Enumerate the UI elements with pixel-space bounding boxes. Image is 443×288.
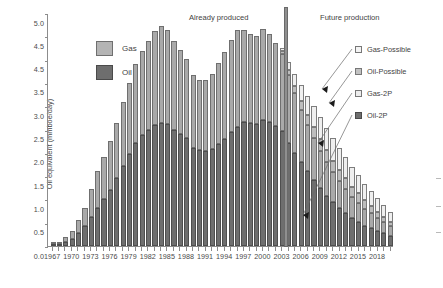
page-edge-mark-2 [436,206,441,207]
segment-gas-possible [362,184,367,201]
x-tick-label: 2009 [312,252,328,261]
segment-gas-possible [305,96,310,115]
x-tick-label: 2003 [273,252,289,261]
segment-gas-2p [260,29,265,120]
segment-gas-2p [121,102,126,165]
y-tick-mark [45,107,48,108]
segment-oil-2p [343,213,348,246]
segment-gas-2p [254,36,259,124]
segment-gas-2p [292,93,297,153]
segment-oil-possible [349,187,354,197]
segment-gas-2p [101,157,106,200]
legend-label: Gas [122,44,137,53]
segment-oil-2p [63,242,68,246]
y-tick-label: 3.5 [34,88,44,97]
segment-oil-possible [369,206,374,213]
segment-oil-2p [70,239,75,246]
segment-oil-2p [191,148,196,246]
x-tick-label: 1973 [82,252,98,261]
segment-oil-2p [121,166,126,246]
segment-gas-possible [388,212,393,222]
segment-oil-2p [369,228,374,246]
legend-label: Gas-2P [367,89,392,98]
x-tick-label: 2000 [254,252,270,261]
segment-oil-2p [171,130,176,247]
segment-gas-possible [337,148,342,170]
y-tick-mark [45,200,48,201]
segment-oil-possible [337,170,342,181]
segment-gas-2p [184,59,189,138]
segment-gas-2p [114,123,119,179]
segment-gas-possible [349,167,354,187]
legend-label: Oil [122,68,132,77]
y-tick-label: 1.0 [34,204,44,213]
segment-gas-possible [375,198,380,212]
legend-label: Oil-Possible [367,67,406,76]
segment-oil-2p [76,233,81,246]
segment-gas-2p [305,125,310,172]
segment-gas-2p [229,40,234,132]
y-tick-label: 1.5 [34,181,44,190]
y-tick-mark [45,224,48,225]
segment-oil-2p [101,199,106,246]
segment-oil-2p [165,124,170,246]
y-tick-mark [45,84,48,85]
annotation-already-produced: Already produced [189,13,249,22]
segment-gas-2p [318,151,323,188]
segment-oil-2p [362,226,367,247]
x-tick-label: 1991 [197,252,213,261]
segment-gas-2p [76,220,81,233]
y-tick-mark [45,14,48,15]
segment-oil-possible [318,139,323,151]
segment-gas-2p [267,34,272,122]
legend-item-gas: Gas [96,41,137,56]
segment-oil-2p [82,226,87,246]
y-tick-mark [45,61,48,62]
x-axis-ticks [47,247,393,251]
segment-gas-2p [241,30,246,122]
segment-oil-2p [375,231,380,246]
segment-gas-2p [356,203,361,222]
segment-gas-2p [324,162,329,196]
y-tick-label: 4.5 [34,41,44,50]
legend-item-oil-2p: Oil-2P [355,111,411,119]
segment-oil-2p [108,190,113,246]
legend-label: Oil-2P [367,111,388,120]
legend-item-gas-2p: Gas-2P [355,89,411,97]
annotation-future-production: Future production [320,13,380,22]
segment-oil-2p [356,222,361,246]
x-tick-label: 1994 [216,252,232,261]
segment-gas-2p [311,138,316,180]
segment-gas-possible [330,138,335,160]
segment-gas-possible [343,157,348,178]
segment-gas-2p [108,141,113,190]
segment-oil-2p [349,218,354,246]
segment-oil-2p [330,202,335,246]
segment-gas-2p [95,171,100,207]
y-tick-mark [45,177,48,178]
segment-oil-2p [216,144,221,246]
segment-oil-possible [343,178,348,189]
segment-gas-2p [349,197,354,218]
segment-gas-2p [191,75,196,148]
segment-gas-2p [171,41,176,130]
segment-gas-2p [330,172,335,202]
legend-swatch-icon [96,41,113,56]
segment-oil-2p [235,127,240,246]
segment-oil-2p [222,139,227,246]
x-tick-mark [387,247,393,251]
y-tick-label: 5.0 [34,18,44,27]
segment-gas-2p [299,110,304,162]
y-tick-mark [45,154,48,155]
segment-gas-2p [197,80,202,150]
x-tick-label: 2012 [331,252,347,261]
segment-oil-2p [203,151,208,246]
x-axis-labels: 1967197019731976197919821985198819911994… [47,252,393,264]
x-tick-label: 2015 [350,252,366,261]
segment-oil-2p [152,125,157,246]
segment-gas-2p [178,50,183,134]
segment-oil-2p [299,162,304,246]
segment-gas-2p [152,31,157,125]
legend-swatch-icon [355,90,362,97]
y-tick-label: 2.0 [34,158,44,167]
